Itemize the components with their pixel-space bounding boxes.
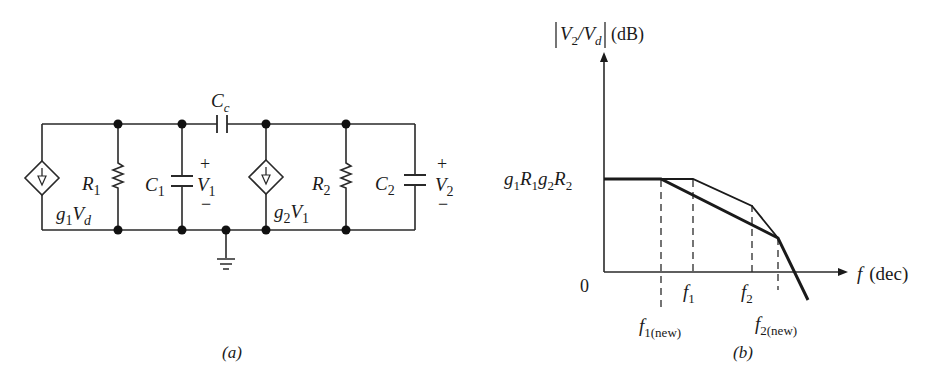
label-v2-plus: + [437,154,447,174]
tick-f2: f2 [741,281,753,306]
caption-a: (a) [222,343,242,362]
label-r1: R1 [81,173,101,198]
x-axis-label: f(dec) [857,263,908,285]
svg-text:V2/Vd: V2/Vd [560,23,602,48]
caption-b: (b) [733,343,753,362]
gain-label: g1R1g2R2 [504,168,572,193]
tick-f1new: f1(new) [639,315,681,340]
capacitor-c1-icon [171,176,193,186]
compensated-response-line [604,179,808,300]
dependent-current-source-1-icon [25,161,59,195]
label-g1vd: g1Vd [56,203,92,228]
label-cc: Cc [211,90,230,115]
resistor-r2-icon [341,124,351,230]
label-r2: R2 [311,173,331,198]
tick-f1: f1 [683,281,695,306]
label-v2-minus: − [438,194,448,214]
bode-plot: V2/Vd (dB) g1R1g2R2 0 f(dec) f1 f2 f1(ne… [504,22,908,362]
y-axis-arrow-icon [600,52,608,62]
label-v1-minus: − [201,194,211,214]
ground-icon [217,259,235,269]
dependent-current-source-2-icon [249,160,283,194]
label-v1-plus: + [200,154,210,174]
origin-label: 0 [580,276,589,296]
tick-f2new: f2(new) [755,313,797,338]
resistor-r1-icon [113,124,123,230]
svg-text:(dB): (dB) [611,24,644,45]
label-c2: C2 [375,173,395,198]
label-g2v1: g2V1 [274,201,309,226]
capacitor-cc-icon [217,115,227,133]
label-c1: C1 [145,174,165,199]
y-axis-label: V2/Vd (dB) [556,22,644,48]
figure-canvas: Cc R1 C1 + V1 − g1Vd g2V1 R2 C2 + V2 − (… [0,0,930,387]
circuit-diagram: Cc R1 C1 + V1 − g1Vd g2V1 R2 C2 + V2 − (… [25,90,454,362]
x-axis-arrow-icon [838,268,848,276]
capacitor-c2-icon [404,175,426,185]
